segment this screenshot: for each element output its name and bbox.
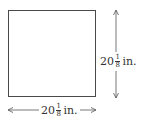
height-whole: 20 <box>100 56 114 67</box>
width-denominator: 8 <box>57 111 61 118</box>
width-fraction: 1 8 <box>56 103 61 118</box>
width-unit: in. <box>63 105 77 116</box>
width-label: 20 1 8 in. <box>39 103 80 118</box>
height-unit: in. <box>122 56 136 67</box>
height-fraction: 1 8 <box>115 54 120 69</box>
height-denominator: 8 <box>116 62 120 69</box>
height-label: 20 1 8 in. <box>100 52 137 71</box>
width-whole: 20 <box>41 105 55 116</box>
